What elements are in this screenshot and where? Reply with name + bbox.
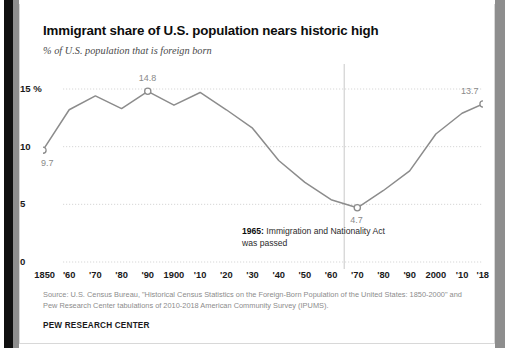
x-tick-label-1920: '20	[220, 270, 233, 280]
x-tick-label-1960: '60	[325, 270, 338, 280]
org-footer: PEW RESEARCH CENTER	[43, 321, 150, 330]
y-tick-label-0: 0	[20, 256, 25, 267]
annotation-year: 1965:	[242, 226, 264, 236]
annotation-text: Immigration and Nationality Act was pass…	[242, 226, 385, 248]
data-label-1890: 14.8	[139, 73, 157, 83]
data-point-marker-1850	[43, 147, 46, 153]
source-note: Source: U.S. Census Bureau, "Historical …	[43, 290, 473, 311]
x-axis-labels: 1850'60'70'80'901900'10'20'30'40'50'60'7…	[43, 270, 493, 284]
x-tick-label-1910: '10	[194, 270, 207, 280]
x-tick-label-2000: 2000	[426, 270, 447, 280]
data-line	[43, 91, 483, 207]
y-tick-label-15: 15 %	[20, 83, 42, 94]
window-bezel-dark	[4, 0, 13, 348]
x-tick-label-1900: 1900	[164, 270, 185, 280]
x-tick-label-2018: '18	[476, 270, 489, 280]
data-point-marker-1890	[145, 88, 151, 94]
x-tick-label-1970: '70	[351, 270, 364, 280]
x-tick-label-1850: 1850	[34, 270, 55, 280]
data-label-1850: 9.7	[41, 158, 54, 168]
window-shadow-right	[495, 0, 505, 348]
x-tick-label-1950: '50	[299, 270, 312, 280]
data-label-1970: 4.7	[350, 215, 363, 225]
x-tick-label-1870: '70	[89, 270, 102, 280]
window-edge-right	[505, 0, 524, 348]
x-tick-label-1930: '30	[246, 270, 259, 280]
chart-card-inner: Immigrant share of U.S. population nears…	[20, 4, 496, 344]
y-tick-label-10: 10	[20, 141, 31, 152]
chart-title: Immigrant share of U.S. population nears…	[43, 23, 473, 38]
x-tick-label-1860: '60	[63, 270, 76, 280]
data-label-2018: 13.7	[461, 86, 479, 96]
x-tick-label-1890: '90	[141, 270, 154, 280]
y-tick-label-5: 5	[20, 198, 25, 209]
data-point-marker-1970	[354, 205, 360, 211]
screenshot-root: Immigrant share of U.S. population nears…	[0, 0, 524, 348]
x-tick-label-1940: '40	[272, 270, 285, 280]
x-tick-label-1990: '90	[403, 270, 416, 280]
annotation-1965: 1965: Immigration and Nationality Act wa…	[242, 226, 402, 249]
chart-card: Immigrant share of U.S. population nears…	[19, 4, 495, 344]
x-tick-label-1880: '80	[115, 270, 128, 280]
data-point-marker-2018	[480, 101, 483, 107]
chart-subtitle: % of U.S. population that is foreign bor…	[43, 45, 473, 57]
x-tick-label-1980: '80	[377, 270, 390, 280]
x-tick-label-2010: '10	[456, 270, 469, 280]
